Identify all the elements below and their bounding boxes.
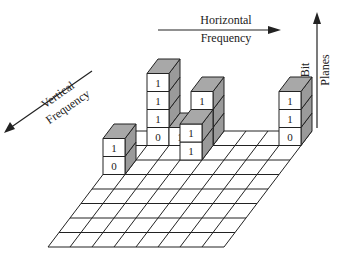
bit-value: 1	[199, 95, 205, 107]
bit-value: 1	[287, 95, 293, 107]
bitplanes-label-line1: Bit	[298, 62, 312, 77]
bit-value: 1	[155, 95, 161, 107]
bit-value: 1	[188, 127, 194, 139]
bit-value: 1	[188, 145, 194, 157]
bit-stack: 011	[279, 77, 312, 146]
horizontal-label-line2: Frequency	[201, 31, 252, 45]
arrow-right-icon	[268, 26, 281, 34]
bit-value: 1	[287, 113, 293, 125]
bit-value: 0	[287, 131, 293, 143]
horizontal-label-line1: Horizontal	[200, 13, 252, 27]
arrow-up-icon	[313, 12, 321, 24]
bit-value: 0	[111, 160, 117, 172]
bit-blocks: 011111010111101	[103, 59, 312, 175]
bitplanes-label-line2: Planes	[318, 54, 332, 86]
horizontal-frequency-axis: Horizontal Frequency	[158, 13, 281, 45]
bit-value: 0	[155, 131, 161, 143]
vertical-frequency-axis: Vertical Frequency	[4, 71, 92, 133]
bit-value: 1	[155, 113, 161, 125]
arrow-down-left-icon	[4, 122, 15, 133]
bit-value: 1	[155, 77, 161, 89]
bit-stack: 01	[103, 124, 136, 175]
bit-plane-diagram: 011111010111101 Horizontal Frequency Ver…	[0, 0, 344, 258]
bit-stack: 11	[180, 110, 213, 161]
bit-value: 1	[111, 142, 117, 154]
